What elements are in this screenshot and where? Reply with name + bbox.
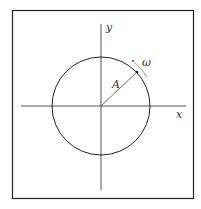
omega-label: ω xyxy=(142,56,151,69)
circle-diagram: y x A ω xyxy=(0,0,201,209)
point-on-circle xyxy=(136,71,139,74)
x-axis-label: x xyxy=(176,108,183,121)
radius-label: A xyxy=(111,78,120,91)
arc-dot xyxy=(132,60,134,62)
y-axis-label: y xyxy=(105,21,113,34)
